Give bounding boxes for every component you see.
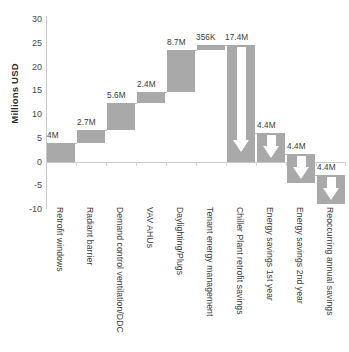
x-tick-5 <box>196 162 197 166</box>
plot-area: 4M 2.7M 5.6M 2.4M 8.7M 356K 17.4M <box>46 16 345 205</box>
connector-2 <box>105 130 107 131</box>
x-label-energy-savings-1st-year: Energy savings 1st year <box>265 207 275 301</box>
x-label-daylighting-plugs: Daylighting/Plugs <box>175 207 185 275</box>
x-tick-3 <box>136 162 137 166</box>
y-tick-20: 20 <box>20 63 42 72</box>
value-label-reoccurring-annual-savings: 4.4M <box>317 164 336 172</box>
bar-tenant-energy-management <box>197 45 225 50</box>
x-tick-6 <box>226 162 227 166</box>
x-label-radiant-barrier: Radiant barrier <box>85 207 95 265</box>
value-label-retrofit-windows: 4M <box>47 132 59 140</box>
x-tick-0 <box>46 162 47 166</box>
value-label-energy-savings-1st-year: 4.4M <box>257 122 276 130</box>
connector-1 <box>75 143 77 144</box>
x-label-chiller-plant-retrofit-savings: Chiller Plant retrofit savings <box>235 207 245 315</box>
bar-radiant-barrier <box>77 130 105 143</box>
y-tick-neg10: -10 <box>20 205 42 214</box>
y-tick-neg5: -5 <box>20 181 42 190</box>
x-tick-7 <box>256 162 257 166</box>
value-label-radiant-barrier: 2.7M <box>77 119 96 127</box>
y-tick-5: 5 <box>20 134 42 143</box>
value-label-tenant-energy-management: 356K <box>196 34 216 42</box>
value-label-demand-control-ventilation: 5.6M <box>107 92 126 100</box>
x-label-tenant-energy-management: Tenant energy management <box>205 207 215 316</box>
y-axis-tick-labels: 30 25 20 15 10 5 0 -5 -10 <box>18 0 42 220</box>
x-tick-1 <box>76 162 77 166</box>
down-arrow-reoccurring-annual-savings <box>317 175 345 204</box>
down-arrow-energy-savings-1st-year <box>257 133 285 162</box>
bar-retrofit-windows <box>47 143 75 162</box>
down-arrow-energy-savings-2nd-year <box>287 154 315 183</box>
connector-5 <box>195 50 197 51</box>
y-tick-30: 30 <box>20 15 42 24</box>
y-tick-25: 25 <box>20 39 42 48</box>
x-tick-10 <box>345 162 346 166</box>
x-tick-4 <box>166 162 167 166</box>
x-label-reoccurring-annual-savings: Reoccurring annual savings <box>325 207 335 316</box>
connector-4 <box>165 92 167 93</box>
connector-3 <box>135 103 137 104</box>
y-tick-15: 15 <box>20 86 42 95</box>
down-arrow-chiller-plant <box>227 45 255 162</box>
x-label-demand-control-ventilation: Demand control ventilation/DDC <box>115 207 125 333</box>
waterfall-chart: Millions USD 30 25 20 15 10 5 0 -5 -10 4… <box>0 0 349 352</box>
bar-daylighting-plugs <box>167 50 195 92</box>
value-label-daylighting-plugs: 8.7M <box>167 39 186 47</box>
y-tick-0: 0 <box>20 158 42 167</box>
x-axis-category-labels: Retrofit windows Radiant barrier Demand … <box>46 207 345 352</box>
value-label-energy-savings-2nd-year: 4.4M <box>287 143 306 151</box>
value-label-chiller-plant-retrofit-savings: 17.4M <box>225 34 248 42</box>
x-tick-2 <box>106 162 107 166</box>
x-label-vav-ahus: VAV AHUs <box>145 207 155 248</box>
y-tick-10: 10 <box>20 110 42 119</box>
value-label-vav-ahus: 2.4M <box>137 81 156 89</box>
bar-demand-control-ventilation <box>107 103 135 130</box>
x-label-energy-savings-2nd-year: Energy savings 2nd year <box>295 207 305 304</box>
x-label-retrofit-windows: Retrofit windows <box>55 207 65 272</box>
bar-vav-ahus <box>137 92 165 103</box>
